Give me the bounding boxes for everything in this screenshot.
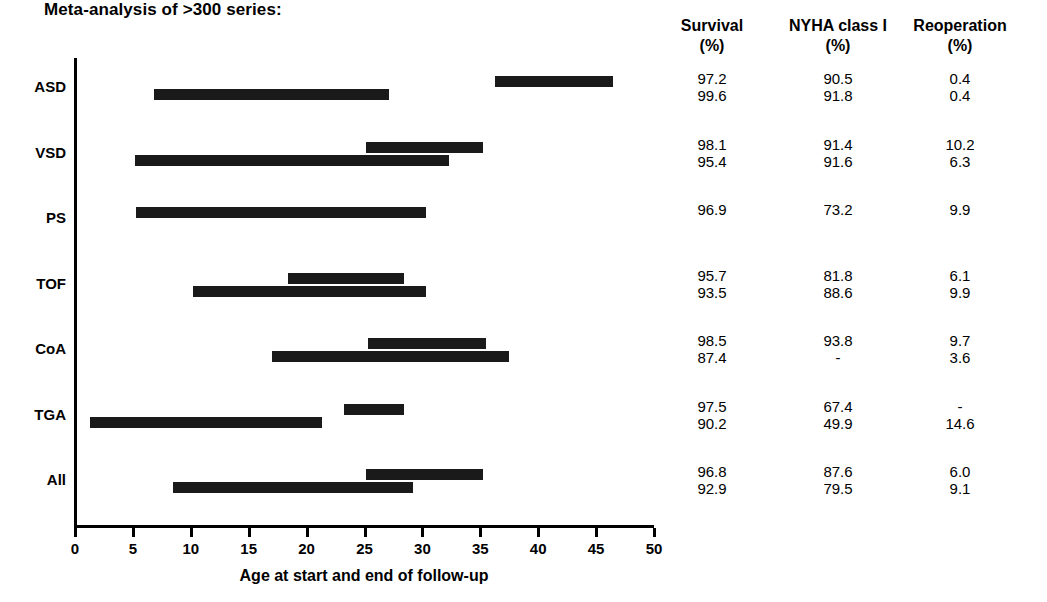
cell-asd-survival-1: 97.2 — [657, 70, 767, 87]
x-tick-label-35: 35 — [460, 540, 500, 557]
cell-coa-reoperation-2: 3.6 — [905, 349, 1015, 366]
x-tick-label-15: 15 — [229, 540, 269, 557]
cell-coa-reoperation-1: 9.7 — [905, 332, 1015, 349]
x-tick-40 — [537, 528, 540, 537]
category-label-vsd: VSD — [4, 144, 66, 161]
cell-ps-reoperation-1: 9.9 — [905, 201, 1015, 218]
category-label-asd: ASD — [4, 78, 66, 95]
column-header-unit: (%) — [642, 36, 782, 56]
x-tick-0 — [74, 528, 77, 537]
bar-vsd-2 — [135, 155, 449, 166]
chart-root: Meta-analysis of >300 series: 0510152025… — [0, 0, 1047, 602]
cell-coa-survival-2: 87.4 — [657, 349, 767, 366]
column-header-nyha_class_i: NYHA class I(%) — [768, 16, 908, 56]
x-tick-45 — [595, 528, 598, 537]
column-header-unit: (%) — [890, 36, 1030, 56]
bar-vsd-1 — [366, 142, 483, 153]
cell-coa-survival-1: 98.5 — [657, 332, 767, 349]
column-header-unit: (%) — [768, 36, 908, 56]
bar-ps-1 — [136, 207, 426, 218]
cell-asd-nyha_class_i-2: 91.8 — [783, 87, 893, 104]
cell-asd-reoperation-2: 0.4 — [905, 87, 1015, 104]
bar-all-1 — [366, 469, 483, 480]
bar-asd-1 — [495, 76, 613, 87]
data-table: Survival(%)NYHA class I(%)Reoperation(%)… — [660, 0, 1047, 602]
x-tick-20 — [306, 528, 309, 537]
cell-all-survival-2: 92.9 — [657, 480, 767, 497]
cell-tga-reoperation-1: - — [905, 398, 1015, 415]
cell-tof-reoperation-2: 9.9 — [905, 284, 1015, 301]
bar-tga-2 — [90, 417, 322, 428]
bar-coa-1 — [368, 338, 486, 349]
x-tick-10 — [190, 528, 193, 537]
cell-all-reoperation-2: 9.1 — [905, 480, 1015, 497]
cell-vsd-nyha_class_i-1: 91.4 — [783, 136, 893, 153]
x-tick-label-0: 0 — [55, 540, 95, 557]
cell-all-nyha_class_i-2: 79.5 — [783, 480, 893, 497]
category-label-coa: CoA — [4, 340, 66, 357]
bar-tga-1 — [344, 404, 404, 415]
cell-tga-nyha_class_i-1: 67.4 — [783, 398, 893, 415]
bar-all-2 — [173, 482, 413, 493]
x-tick-label-30: 30 — [402, 540, 442, 557]
column-header-label: NYHA class I — [789, 17, 887, 34]
bar-tof-2 — [193, 286, 426, 297]
cell-all-nyha_class_i-1: 87.6 — [783, 463, 893, 480]
cell-vsd-reoperation-1: 10.2 — [905, 136, 1015, 153]
column-header-survival: Survival(%) — [642, 16, 782, 56]
cell-tof-survival-1: 95.7 — [657, 267, 767, 284]
x-axis-title: Age at start and end of follow-up — [74, 567, 654, 585]
column-header-reoperation: Reoperation(%) — [890, 16, 1030, 56]
x-tick-label-5: 5 — [113, 540, 153, 557]
cell-vsd-survival-1: 98.1 — [657, 136, 767, 153]
cell-tga-nyha_class_i-2: 49.9 — [783, 415, 893, 432]
category-label-tof: TOF — [4, 275, 66, 292]
cell-vsd-nyha_class_i-2: 91.6 — [783, 153, 893, 170]
cell-asd-survival-2: 99.6 — [657, 87, 767, 104]
cell-all-survival-1: 96.8 — [657, 463, 767, 480]
cell-tof-survival-2: 93.5 — [657, 284, 767, 301]
x-tick-15 — [248, 528, 251, 537]
cell-asd-reoperation-1: 0.4 — [905, 70, 1015, 87]
cell-tga-survival-2: 90.2 — [657, 415, 767, 432]
cell-coa-nyha_class_i-2: - — [783, 349, 893, 366]
cell-tof-nyha_class_i-2: 88.6 — [783, 284, 893, 301]
cell-coa-nyha_class_i-1: 93.8 — [783, 332, 893, 349]
cell-vsd-reoperation-2: 6.3 — [905, 153, 1015, 170]
category-label-all: All — [4, 471, 66, 488]
cell-tga-reoperation-2: 14.6 — [905, 415, 1015, 432]
x-tick-50 — [653, 528, 656, 537]
column-header-label: Survival — [681, 17, 743, 34]
column-header-label: Reoperation — [913, 17, 1006, 34]
x-tick-label-10: 10 — [171, 540, 211, 557]
cell-asd-nyha_class_i-1: 90.5 — [783, 70, 893, 87]
x-tick-35 — [479, 528, 482, 537]
cell-all-reoperation-1: 6.0 — [905, 463, 1015, 480]
x-tick-label-45: 45 — [576, 540, 616, 557]
category-label-tga: TGA — [4, 406, 66, 423]
x-tick-label-25: 25 — [345, 540, 385, 557]
bar-tof-1 — [288, 273, 404, 284]
cell-ps-survival-1: 96.9 — [657, 201, 767, 218]
plot-area: 05101520253035404550 ASDVSDPSTOFCoATGAAl… — [0, 0, 680, 602]
bar-asd-2 — [154, 89, 389, 100]
x-tick-5 — [132, 528, 135, 537]
x-tick-30 — [421, 528, 424, 537]
cell-vsd-survival-2: 95.4 — [657, 153, 767, 170]
cell-ps-nyha_class_i-1: 73.2 — [783, 201, 893, 218]
cell-tof-reoperation-1: 6.1 — [905, 267, 1015, 284]
x-tick-25 — [364, 528, 367, 537]
category-label-ps: PS — [4, 209, 66, 226]
y-axis-line — [74, 58, 77, 528]
cell-tof-nyha_class_i-1: 81.8 — [783, 267, 893, 284]
cell-tga-survival-1: 97.5 — [657, 398, 767, 415]
x-tick-label-40: 40 — [518, 540, 558, 557]
bar-coa-2 — [272, 351, 509, 362]
x-tick-label-20: 20 — [287, 540, 327, 557]
